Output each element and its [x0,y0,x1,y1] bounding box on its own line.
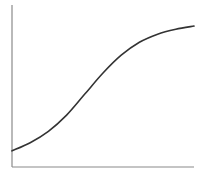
data-line [12,26,194,151]
line-chart [0,0,214,176]
